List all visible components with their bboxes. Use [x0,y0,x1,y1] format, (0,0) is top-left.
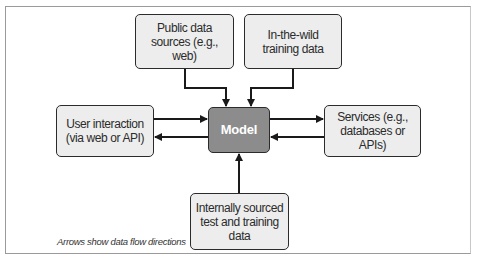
node-label: Model [221,123,258,137]
arrow-public-to-model [185,69,226,106]
node-model: Model [208,107,270,153]
node-user-interaction: User interaction (via web or API) [56,105,154,157]
node-in-the-wild-training-data: In-the-wild training data [244,14,342,69]
node-services: Services (e.g., databases or APIs) [324,105,421,157]
node-label: Public data sources (e.g., web) [140,21,229,63]
node-label: In-the-wild training data [249,28,337,56]
node-label: Services (e.g., databases or APIs) [329,110,416,152]
node-public-data-sources: Public data sources (e.g., web) [135,14,234,69]
diagram-caption: Arrows show data flow directions [57,236,186,247]
arrow-wild-to-model [251,69,293,106]
node-internal-data: Internally sourced test and training dat… [190,193,289,250]
node-label: User interaction (via web or API) [61,117,149,145]
node-label: Internally sourced test and training dat… [195,201,284,243]
